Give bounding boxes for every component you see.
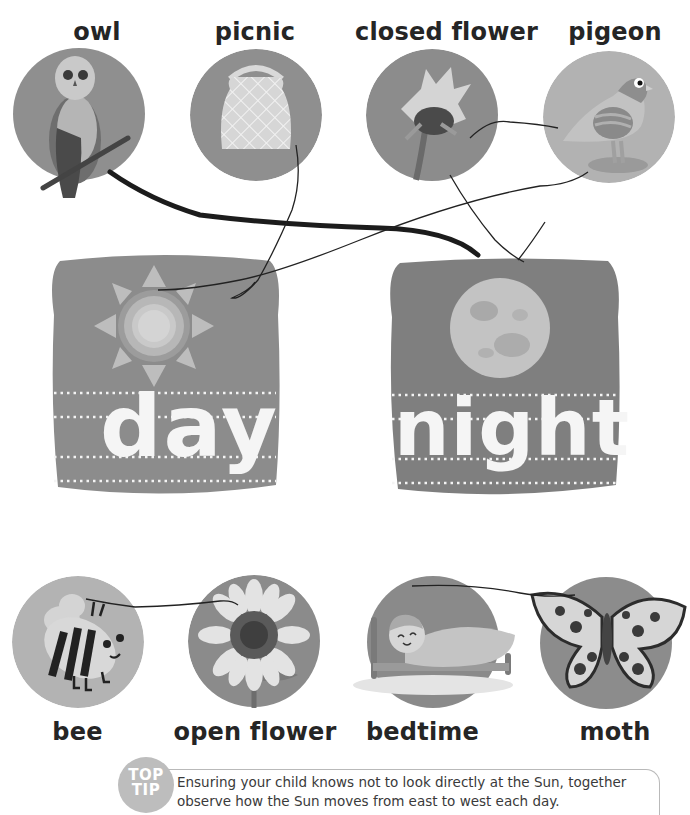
child-in-bed-icon xyxy=(355,575,507,710)
picnic-basket-icon xyxy=(190,49,322,181)
night-card[interactable]: night xyxy=(388,257,621,498)
owl-card[interactable] xyxy=(13,48,145,180)
sunflower-icon xyxy=(188,575,321,708)
label-bee: bee xyxy=(20,718,135,746)
day-card[interactable]: day xyxy=(50,255,280,497)
label-open-flower: open flower xyxy=(170,718,340,746)
label-owl: owl xyxy=(42,18,152,46)
pigeon-icon xyxy=(543,51,675,183)
moth-card[interactable] xyxy=(540,577,672,709)
closed-sunflower-icon xyxy=(366,49,499,182)
label-picnic: picnic xyxy=(190,18,320,46)
moon-icon xyxy=(450,278,550,378)
closed-flower-card[interactable] xyxy=(366,49,499,182)
day-word: day xyxy=(100,383,279,469)
pigeon-card[interactable] xyxy=(543,51,675,183)
bee-card[interactable] xyxy=(12,576,144,708)
line-owl-to-night xyxy=(110,172,478,255)
line-closed-flower-to-night xyxy=(450,175,524,262)
bedtime-card[interactable] xyxy=(355,575,507,710)
open-flower-card[interactable] xyxy=(188,575,321,708)
label-pigeon: pigeon xyxy=(555,18,675,46)
label-bedtime: bedtime xyxy=(350,718,495,746)
label-moth: moth xyxy=(555,718,675,746)
owl-photo-icon xyxy=(13,48,145,180)
picnic-card[interactable] xyxy=(190,49,322,181)
bee-icon xyxy=(12,576,144,708)
tip-text: Ensuring your child knows not to look di… xyxy=(177,773,667,811)
top-tip-badge: TOP TIP xyxy=(118,757,174,813)
label-closed-flower: closed flower xyxy=(355,18,525,46)
tip-badge-line2: TIP xyxy=(118,783,174,798)
moth-icon xyxy=(540,577,672,709)
night-word: night xyxy=(394,385,630,471)
